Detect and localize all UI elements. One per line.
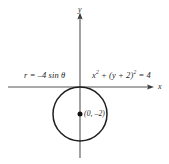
cartesian-equation-middle: + (y + 2) <box>99 70 134 80</box>
coordinate-plane-graphic <box>0 0 169 164</box>
y-axis-label: y <box>78 6 82 14</box>
polar-equation-label: r = –4 sin θ <box>24 71 65 80</box>
center-point-dot <box>78 112 83 117</box>
polar-circle-figure: r = –4 sin θ x2 + (y + 2)2 = 4 (0, –2) y… <box>0 0 169 164</box>
cartesian-equation-tail: = 4 <box>136 70 151 80</box>
center-point-label: (0, –2) <box>84 110 105 118</box>
x-axis-label: x <box>158 83 162 91</box>
cartesian-equation-label: x2 + (y + 2)2 = 4 <box>92 71 151 80</box>
